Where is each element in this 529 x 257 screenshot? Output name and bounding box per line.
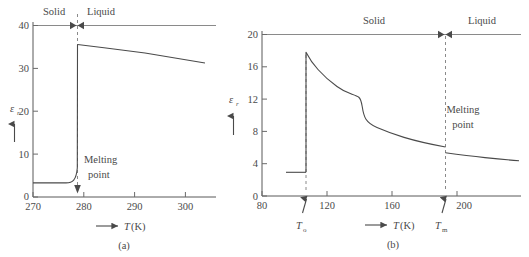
panel-a-solid-branch-curve: [33, 45, 78, 183]
panel-a-boundary-arrow-right-icon: [78, 22, 85, 29]
panel-a-phase-label-liquid: Liquid: [87, 6, 116, 17]
figure-canvas: ε r T (K) Solid Liquid Melting point 40 …: [0, 0, 529, 257]
panel-b-ytick-label-12: 12: [248, 94, 259, 105]
panel-a-label: (a): [118, 240, 130, 252]
panel-b-ytick-label-8: 8: [253, 126, 258, 137]
panel-a-melting-down-arrow-icon: [74, 185, 81, 194]
panel-b-boundary-arrow-right-icon: [446, 31, 453, 38]
panel-a-phase-label-solid: Solid: [43, 6, 66, 17]
panel-a-group: ε r T (K) Solid Liquid Melting point 40 …: [10, 6, 216, 253]
panel-a-ytick-label-30: 30: [19, 63, 30, 74]
panel-a-xtick-label-270: 270: [25, 201, 41, 212]
panel-b-ytick-label-16: 16: [248, 61, 259, 72]
panel-b-phase-label-solid: Solid: [363, 15, 386, 26]
panel-b-marker-to-subscript: o: [303, 226, 307, 234]
panel-b-melting-label-line1: Melting: [446, 104, 480, 115]
panel-b-boundary-arrow-left-icon: [438, 31, 445, 38]
panel-b-x-axis-unit: (K): [400, 220, 415, 232]
panel-b-liquid-branch-curve: [446, 153, 520, 161]
panel-b-ytick-label-4: 4: [253, 158, 259, 169]
panel-a-x-axis-unit: (K): [131, 221, 146, 233]
panel-a-melting-label-line2: point: [88, 169, 110, 180]
panel-b-solid-branch-curve: [306, 52, 446, 172]
panel-b-ytick-label-20: 20: [248, 29, 259, 40]
panel-b-y-axis-subscript: r: [236, 100, 239, 108]
figure-root: ε r T (K) Solid Liquid Melting point 40 …: [0, 0, 529, 257]
panel-b-xtick-label-160: 160: [384, 200, 400, 211]
panel-b-phase-label-liquid: Liquid: [468, 15, 497, 26]
panel-b-tm-arrow-icon: [442, 199, 446, 213]
panel-b-to-arrow-icon: [303, 199, 307, 213]
panel-a-ytick-label-10: 10: [19, 149, 30, 160]
panel-b-marker-tm-subscript: m: [442, 226, 448, 234]
panel-b-marker-to-symbol: T: [296, 220, 303, 231]
panel-a-y-axis-symbol: ε: [10, 103, 15, 114]
panel-a-ytick-label-40: 40: [19, 20, 30, 31]
panel-b-x-axis-title: T: [393, 220, 400, 231]
panel-b-melting-label-line2: point: [452, 119, 474, 130]
panel-a-x-axis-title: T: [124, 221, 131, 232]
panel-a-xtick-label-280: 280: [76, 201, 92, 212]
panel-b-xtick-label-200: 200: [456, 200, 472, 211]
panel-b-group: ε r T (K) Solid Liquid Melting point 20 …: [229, 15, 521, 251]
panel-a-liquid-branch-curve: [78, 45, 206, 64]
panel-b-xtick-label-120: 120: [319, 200, 335, 211]
panel-a-melting-label-line1: Melting: [84, 154, 118, 165]
panel-b-y-axis-symbol: ε: [229, 94, 234, 105]
panel-a-xtick-label-290: 290: [127, 201, 143, 212]
panel-a-boundary-arrow-left-icon: [70, 22, 77, 29]
panel-b-marker-tm-symbol: T: [435, 220, 442, 231]
panel-a-ytick-label-20: 20: [19, 106, 30, 117]
panel-b-label: (b): [387, 239, 400, 251]
panel-a-xtick-label-300: 300: [178, 201, 194, 212]
panel-b-xtick-label-80: 80: [257, 200, 268, 211]
